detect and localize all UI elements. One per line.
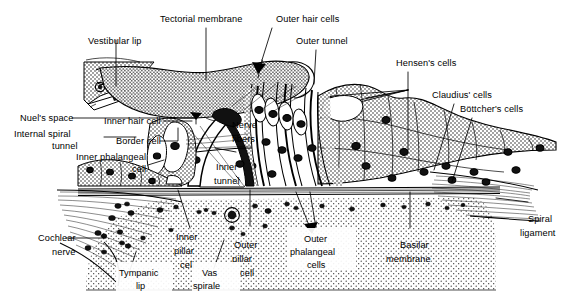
label-tympanic-lip-line1: Tympanic [119,268,159,278]
label-basilar-membrane-line2: membrane [386,254,431,264]
label-inner-tunnel-line2: tunnel [214,176,240,186]
label-cochlear-nerve-line1: Cochlear [38,233,76,243]
label-vestibular-lip: Vestibular lip [88,36,142,46]
label-hensens-cells: Hensen's cells [396,58,457,68]
boxed-label-vas-spirale: Vas spirale [192,262,240,292]
boxed-label-tympanic-lip: Tympanic lip [116,262,172,292]
label-outer-pillar-line1: Outer [234,240,257,250]
label-vas-spirale-line2: spirale [193,281,220,291]
label-nuels-space: Nuel's space [20,113,74,123]
label-inner-phalangeal-line2: cell [132,164,146,174]
label-outer-phalangeal-line2: phalangeal [290,247,335,257]
label-spiral-ligament-line1: Spiral [528,214,552,224]
label-internal-spiral-tunnel-line1: Internal spiral [14,129,71,139]
organ-of-corti-figure: Tectorial membrane Outer hair cells Oute… [0,0,570,304]
label-outer-phalangeal-line3: cells [307,260,326,270]
label-inner-pillar-line2: pillar [174,246,194,256]
label-claudius-cells: Claudius' cells [432,90,492,100]
label-inner-phalangeal-line1: Inner phalangeal [76,152,146,162]
label-inner-hair-cell: Inner hair cell [104,116,161,126]
label-cochlear-nerve-line2: nerve [52,247,75,257]
label-tectorial-membrane: Tectorial membrane [160,14,242,24]
label-outer-pillar-line3: cell [240,268,254,278]
label-border-cell: Border cell [116,136,161,146]
label-outer-tunnel: Outer tunnel [296,36,348,46]
label-basilar-membrane-line1: Basilar [400,240,429,250]
label-inner-pillar-line1: Inner [176,232,197,242]
label-inner-tunnel-line1: Inner [216,162,237,172]
boxed-label-outer-phalangeal-cells: Outer phalangeal cells [288,228,356,270]
label-outer-hair-cells: Outer hair cells [276,14,340,24]
label-nerve-fibers-line1: Nerve [232,120,257,130]
label-internal-spiral-tunnel-line2: tunnel [52,141,78,151]
label-bottchers-cells: Böttcher's cells [460,104,523,114]
label-outer-phalangeal-line1: Outer [304,234,327,244]
label-nerve-fibers-line2: fibers [232,134,255,144]
label-spiral-ligament-line2: ligament [520,228,556,238]
diagram-canvas: Tectorial membrane Outer hair cells Oute… [0,0,570,304]
label-vas-spirale-line1: Vas [202,268,218,278]
label-tympanic-lip-line2: lip [136,281,145,291]
